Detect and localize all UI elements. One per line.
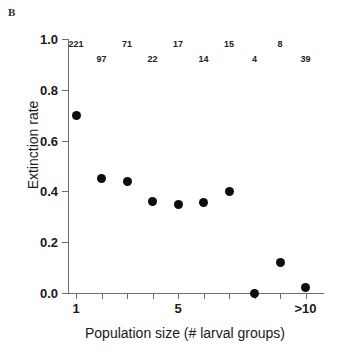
data-point <box>123 177 132 186</box>
y-tick-label: 0.2 <box>0 236 58 249</box>
x-tick-label: >10 <box>276 302 336 315</box>
y-tick <box>62 90 68 91</box>
sample-size-label: 8 <box>260 40 300 49</box>
sample-size-label: 221 <box>56 40 96 49</box>
x-tick <box>280 294 281 299</box>
data-point <box>174 200 183 209</box>
x-tick <box>178 294 179 299</box>
sample-size-label: 97 <box>82 55 122 64</box>
data-point <box>199 198 208 207</box>
y-tick-label: 0.0 <box>0 287 58 300</box>
sample-size-label: 17 <box>158 40 198 49</box>
y-axis-title: Extinction rate <box>25 55 41 235</box>
x-tick <box>102 294 103 299</box>
figure-panel-b: B 0.00.20.40.60.81.0 15>10 2219771221714… <box>0 0 341 357</box>
sample-size-label: 71 <box>107 40 147 49</box>
data-point <box>225 187 234 196</box>
sample-size-label: 22 <box>133 55 173 64</box>
scatter-plot: 0.00.20.40.60.81.0 15>10 221977122171415… <box>0 0 341 357</box>
x-tick <box>229 294 230 299</box>
sample-size-label: 4 <box>235 55 275 64</box>
data-point <box>97 174 106 183</box>
data-point <box>72 111 81 120</box>
data-point <box>276 258 285 267</box>
x-tick <box>76 294 77 299</box>
x-axis-title: Population size (# larval groups) <box>40 325 330 341</box>
x-tick <box>204 294 205 299</box>
x-tick <box>127 294 128 299</box>
sample-size-label: 39 <box>286 55 326 64</box>
y-tick <box>62 141 68 142</box>
x-tick <box>153 294 154 299</box>
y-tick <box>62 242 68 243</box>
x-tick-label: 1 <box>46 302 106 315</box>
x-axis-line <box>68 293 324 294</box>
x-tick <box>306 294 307 299</box>
y-tick-label: 1.0 <box>0 33 58 46</box>
sample-size-label: 14 <box>184 55 224 64</box>
data-point <box>250 289 259 298</box>
y-axis-line <box>68 39 69 294</box>
sample-size-label: 15 <box>209 40 249 49</box>
data-point <box>148 197 157 206</box>
x-tick-label: 5 <box>148 302 208 315</box>
data-point <box>301 283 310 292</box>
y-tick <box>62 293 68 294</box>
y-tick <box>62 191 68 192</box>
